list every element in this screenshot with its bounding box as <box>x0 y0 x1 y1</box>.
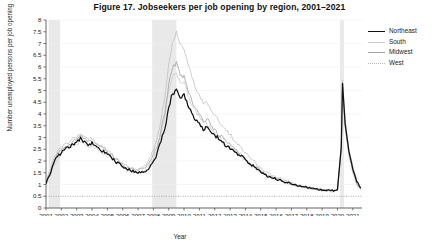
y-tick-label: 3 <box>38 134 42 141</box>
y-tick-label: 7 <box>38 40 42 47</box>
x-tick-label: 2015 <box>254 212 268 216</box>
y-tick-label: 2 <box>38 157 42 164</box>
y-tick-label: 4 <box>38 110 42 117</box>
y-tick-label: 7.5 <box>33 28 42 35</box>
chart-legend: NortheastSouthMidwestWest <box>368 26 439 68</box>
x-tick-label: 2002 <box>55 212 69 216</box>
x-tick-label: 2008 <box>147 212 161 216</box>
x-tick-label: 2007 <box>131 212 145 216</box>
y-tick-label: 6.5 <box>33 51 42 58</box>
legend-swatch-icon <box>368 59 385 66</box>
y-tick-label: 8 <box>38 16 42 23</box>
x-axis-label: Year <box>0 233 360 240</box>
y-tick-label: 0.5 <box>33 192 42 199</box>
legend-swatch-icon <box>368 49 385 56</box>
y-tick-label: 1 <box>38 181 42 188</box>
y-tick-label: 6 <box>38 63 42 70</box>
series-line-midwest <box>46 61 360 191</box>
x-tick-label: 2012 <box>208 212 222 216</box>
x-tick-label: 2014 <box>239 212 253 216</box>
legend-label: West <box>389 60 403 66</box>
legend-item-midwest[interactable]: Midwest <box>368 47 439 58</box>
chart-title: Figure 17. Jobseekers per job opening by… <box>0 2 439 12</box>
x-tick-label: 2006 <box>116 212 130 216</box>
x-tick-label: 2016 <box>269 212 283 216</box>
x-tick-label: 2018 <box>300 212 314 216</box>
legend-item-northeast[interactable]: Northeast <box>368 26 439 37</box>
legend-swatch-icon <box>368 28 385 35</box>
x-tick-label: 2011 <box>193 212 207 216</box>
legend-label: South <box>389 39 406 45</box>
x-tick-label: 2004 <box>85 212 99 216</box>
legend-item-west[interactable]: West <box>368 58 439 69</box>
y-tick-label: 1.5 <box>33 169 42 176</box>
y-tick-label: 4.5 <box>33 98 42 105</box>
y-tick-label: 0 <box>38 204 42 211</box>
y-axis-label: Number unemployed persons per job openin… <box>6 0 13 153</box>
legend-swatch-icon <box>368 38 385 45</box>
series-line-west <box>46 31 360 191</box>
x-tick-label: 2019 <box>315 212 329 216</box>
y-tick-label: 3.5 <box>33 122 42 129</box>
x-tick-label: 2017 <box>285 212 299 216</box>
x-tick-label: 2001 <box>39 212 53 216</box>
legend-label: Midwest <box>389 49 412 55</box>
x-tick-label: 2021 <box>346 212 360 216</box>
x-tick-label: 2010 <box>177 212 191 216</box>
x-tick-label: 2009 <box>162 212 176 216</box>
x-tick-label: 2005 <box>101 212 115 216</box>
x-tick-label: 2020 <box>331 212 345 216</box>
figure-container: Figure 17. Jobseekers per job opening by… <box>0 0 439 248</box>
series-line-south <box>46 73 360 192</box>
y-tick-label: 5.5 <box>33 75 42 82</box>
x-tick-label: 2013 <box>223 212 237 216</box>
legend-label: Northeast <box>389 28 417 34</box>
y-tick-label: 5 <box>38 87 42 94</box>
x-tick-label: 2003 <box>70 212 84 216</box>
y-tick-label: 2.5 <box>33 145 42 152</box>
legend-item-south[interactable]: South <box>368 37 439 48</box>
